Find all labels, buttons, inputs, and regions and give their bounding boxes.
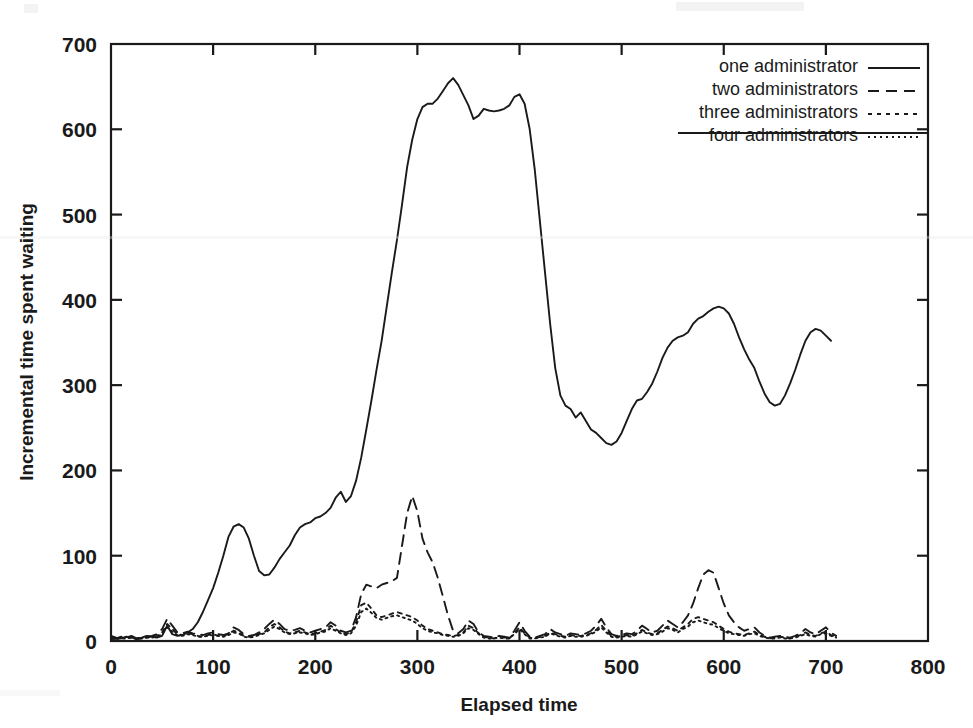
x-tick-label: 600 — [706, 655, 741, 678]
y-tick-label: 500 — [62, 204, 97, 227]
x-tick-label: 0 — [105, 655, 117, 678]
y-axis-title: Incremental time spent waiting — [16, 203, 37, 481]
series-line — [111, 78, 831, 638]
legend-label: four administrators — [709, 125, 858, 145]
y-tick-label: 300 — [62, 374, 97, 397]
x-tick-label: 800 — [910, 655, 945, 678]
chart-legend: one administratortwo administratorsthree… — [678, 44, 928, 145]
x-tick-label: 500 — [604, 655, 639, 678]
y-tick-label: 0 — [85, 630, 97, 653]
legend-label: two administrators — [712, 79, 858, 99]
legend-label: one administrator — [719, 56, 858, 76]
line-chart: 0100200300400500600700800 01002003004005… — [0, 0, 973, 728]
x-tick-label: 200 — [298, 655, 333, 678]
legend-items: one administratortwo administratorsthree… — [699, 56, 920, 145]
x-tick-label: 100 — [196, 655, 231, 678]
x-tick-label: 400 — [502, 655, 537, 678]
chart-figure: 0100200300400500600700800 01002003004005… — [0, 0, 973, 728]
y-tick-label: 700 — [62, 33, 97, 56]
series-layer — [111, 78, 836, 639]
x-axis-title: Elapsed time — [460, 694, 577, 715]
x-tick-label: 700 — [808, 655, 843, 678]
y-tick-label: 100 — [62, 545, 97, 568]
x-tick-label: 300 — [400, 655, 435, 678]
y-tick-label: 200 — [62, 459, 97, 482]
legend-label: three administrators — [699, 102, 858, 122]
y-tick-label: 600 — [62, 118, 97, 141]
y-tick-label: 400 — [62, 289, 97, 312]
